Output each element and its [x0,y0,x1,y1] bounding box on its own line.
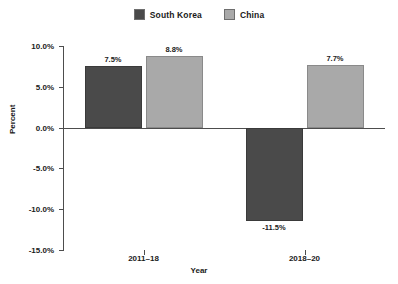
x-tick-label: 2018–20 [289,254,320,263]
y-tick [59,128,64,129]
legend-entry-south-korea: South Korea [134,9,202,20]
bar-value-label: 8.8% [165,45,182,54]
y-tick-label: 5.0% [36,82,54,91]
y-tick [59,46,64,47]
legend-swatch-china [224,9,235,20]
x-tick-label: 2011–18 [128,254,159,263]
bar-south-korea-2011–18 [85,66,142,127]
plot-area: 10.0%5.0%0.0%-5.0%-10.0%-15.0% 7.5%8.8%-… [63,46,385,250]
legend-label-china: China [240,10,264,20]
y-axis-line [63,46,64,250]
legend-entry-china: China [224,9,264,20]
y-tick-label: -15.0% [29,246,54,255]
y-tick-label: -10.0% [29,205,54,214]
x-axis-title: Year [0,266,398,275]
y-tick [59,209,64,210]
y-axis-title: Percent [8,105,17,134]
bar-south-korea-2018–20 [246,128,303,222]
y-tick-label: -5.0% [33,164,54,173]
zero-baseline [63,128,385,129]
bar-china-2018–20 [307,65,364,128]
y-tick-label: 0.0% [36,123,54,132]
y-tick-label: 10.0% [31,42,54,51]
y-tick [59,168,64,169]
legend-label-south-korea: South Korea [150,10,202,20]
bar-value-label: 7.7% [326,54,343,63]
y-tick [59,87,64,88]
bar-china-2011–18 [146,56,203,128]
bar-chart-figure: South Korea China Percent 10.0%5.0%0.0%-… [0,0,398,284]
bar-value-label: 7.5% [104,55,121,64]
legend-swatch-south-korea [134,9,145,20]
y-tick [59,250,64,251]
bar-value-label: -11.5% [262,223,285,232]
chart-legend: South Korea China [0,9,398,20]
